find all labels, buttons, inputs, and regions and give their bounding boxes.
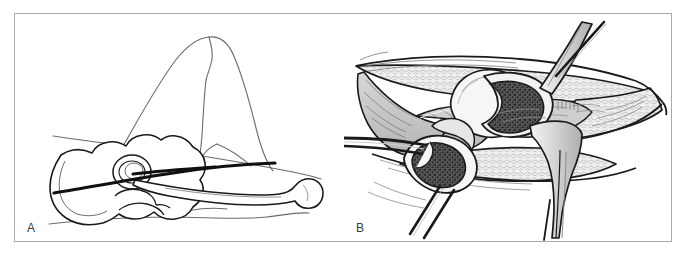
- panel-a-label: A: [27, 221, 36, 235]
- figure-container: A: [0, 0, 684, 254]
- panel-b: B: [344, 14, 673, 243]
- retractor-handle-lower-right[interactable]: [544, 200, 550, 240]
- panel-b-label: B: [356, 221, 365, 235]
- panel-a: A: [15, 14, 344, 243]
- panel-a-illustration: [15, 14, 344, 243]
- femoral-head-in-socket: [125, 163, 143, 179]
- retractor-handle-lower-left[interactable]: [410, 186, 454, 238]
- figure-frame: A: [14, 13, 672, 242]
- panel-b-illustration: [344, 14, 673, 243]
